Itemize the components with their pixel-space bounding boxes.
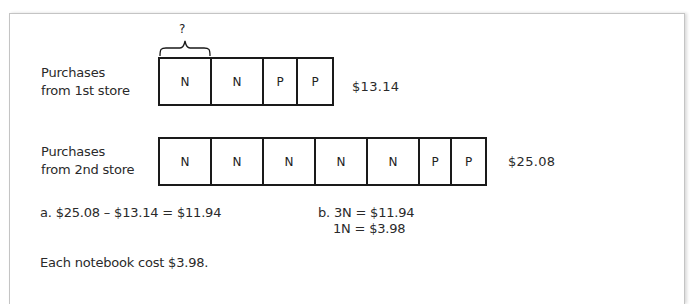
question-mark: ? <box>179 22 185 36</box>
row1-tape: N N P P <box>158 57 334 106</box>
row1-total: $13.14 <box>352 79 399 94</box>
curly-brace-icon <box>158 39 212 57</box>
step-a-equation: a. $25.08 – $13.14 = $11.94 <box>40 205 221 221</box>
row2-label-line1: Purchases <box>41 143 134 161</box>
row2-label-line2: from 2nd store <box>41 161 134 179</box>
row1-cell-notebook: N <box>160 59 212 104</box>
row2-cell-pen: P <box>420 139 452 184</box>
row2-cell-notebook: N <box>160 139 212 184</box>
row2-cell-notebook: N <box>212 139 264 184</box>
row1-cell-pen: P <box>298 59 332 104</box>
step-b-equation-line2: 1N = $3.98 <box>333 221 405 237</box>
row1-label: Purchases from 1st store <box>41 64 130 100</box>
row1-label-line2: from 1st store <box>41 82 130 100</box>
row2-cell-notebook: N <box>368 139 420 184</box>
row2-cell-pen: P <box>452 139 485 184</box>
row2-label: Purchases from 2nd store <box>41 143 134 179</box>
row1-label-line1: Purchases <box>41 64 130 82</box>
row2-cell-notebook: N <box>264 139 316 184</box>
row1-cell-pen: P <box>264 59 298 104</box>
row2-tape: N N N N N P P <box>158 137 487 186</box>
conclusion-text: Each notebook cost $3.98. <box>40 255 208 271</box>
row2-cell-notebook: N <box>316 139 368 184</box>
row2-total: $25.08 <box>508 154 555 169</box>
row1-cell-notebook: N <box>212 59 264 104</box>
step-b-equation-line1: b. 3N = $11.94 <box>318 205 414 221</box>
